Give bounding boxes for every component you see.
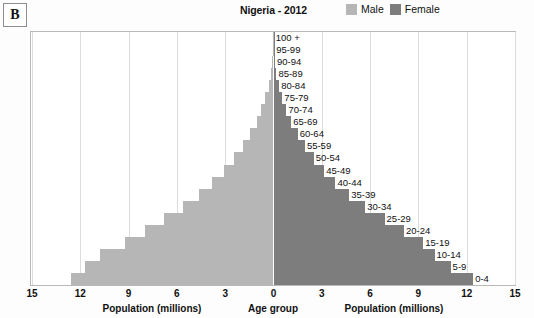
pyramid-row: 65-69 bbox=[31, 116, 515, 128]
bar-male bbox=[85, 261, 273, 273]
pyramid-row: 0-4 bbox=[31, 273, 515, 285]
bar-female bbox=[274, 128, 298, 140]
age-group-label: 40-44 bbox=[337, 178, 361, 188]
age-group-label: 70-74 bbox=[288, 106, 312, 116]
pyramid-row: 25-29 bbox=[31, 213, 515, 225]
bar-female bbox=[274, 225, 404, 237]
bar-female bbox=[274, 104, 287, 116]
pyramid-row: 50-54 bbox=[31, 152, 515, 164]
x-axis-title-right: Population (millions) bbox=[345, 303, 444, 314]
pyramid-row: 85-89 bbox=[31, 68, 515, 80]
gridline bbox=[515, 32, 516, 285]
bar-male bbox=[212, 177, 273, 189]
legend-item-male: Male bbox=[346, 3, 384, 15]
bar-female bbox=[274, 68, 277, 80]
bar-male bbox=[250, 128, 273, 140]
x-axis-tick-label: 12 bbox=[75, 288, 86, 299]
legend-item-female: Female bbox=[390, 3, 440, 15]
age-group-label: 80-84 bbox=[281, 81, 305, 91]
bar-female bbox=[274, 213, 385, 225]
bar-female bbox=[274, 56, 275, 68]
bar-male bbox=[224, 165, 274, 177]
bar-female bbox=[274, 237, 424, 249]
pyramid-row: 35-39 bbox=[31, 189, 515, 201]
bar-male bbox=[257, 116, 274, 128]
bar-female bbox=[274, 44, 275, 56]
age-group-label: 95-99 bbox=[276, 45, 300, 55]
bar-male bbox=[265, 92, 273, 104]
bar-female bbox=[274, 201, 366, 213]
panel-letter: B bbox=[3, 3, 27, 27]
pyramid-row: 60-64 bbox=[31, 128, 515, 140]
pyramid-row: 75-79 bbox=[31, 92, 515, 104]
bar-male bbox=[125, 237, 273, 249]
age-group-label: 50-54 bbox=[316, 154, 340, 164]
pyramid-row: 20-24 bbox=[31, 225, 515, 237]
bar-female bbox=[274, 261, 451, 273]
pyramid-row: 55-59 bbox=[31, 140, 515, 152]
x-axis-titles: Population (millions) Age group Populati… bbox=[0, 303, 534, 317]
age-group-label: 0-4 bbox=[475, 274, 489, 284]
bar-female bbox=[274, 189, 350, 201]
age-group-label: 90-94 bbox=[277, 57, 301, 67]
age-group-label: 5-9 bbox=[453, 262, 467, 272]
bar-rows: 100 +95-9990-9485-8980-8475-7970-7465-69… bbox=[31, 32, 515, 285]
x-axis-tick-label: 3 bbox=[222, 288, 228, 299]
bar-female bbox=[274, 165, 325, 177]
x-axis-title-center: Age group bbox=[248, 303, 298, 314]
x-axis-tick-label: 6 bbox=[367, 288, 373, 299]
bar-male bbox=[71, 273, 274, 285]
pyramid-row: 5-9 bbox=[31, 261, 515, 273]
legend-label-male: Male bbox=[361, 3, 384, 15]
bar-female bbox=[274, 152, 314, 164]
x-axis-tick-label: 15 bbox=[509, 288, 520, 299]
bar-male bbox=[164, 213, 273, 225]
female-swatch-icon bbox=[390, 4, 401, 15]
chart-legend: Male Female bbox=[346, 3, 440, 15]
x-axis-tick-label: 0 bbox=[271, 288, 277, 299]
bar-male bbox=[234, 152, 273, 164]
population-pyramid-figure: B Nigeria - 2012 Male Female 100 +95-999… bbox=[0, 0, 534, 318]
pyramid-row: 100 + bbox=[31, 32, 515, 44]
x-axis-tick-label: 12 bbox=[461, 288, 472, 299]
bar-male bbox=[183, 201, 273, 213]
pyramid-row: 30-34 bbox=[31, 201, 515, 213]
pyramid-row: 95-99 bbox=[31, 44, 515, 56]
bar-female bbox=[274, 177, 336, 189]
x-axis-tick-label: 15 bbox=[26, 288, 37, 299]
age-group-label: 75-79 bbox=[284, 94, 308, 104]
pyramid-row: 80-84 bbox=[31, 80, 515, 92]
pyramid-row: 70-74 bbox=[31, 104, 515, 116]
age-group-label: 60-64 bbox=[300, 130, 324, 140]
age-group-label: 10-14 bbox=[437, 250, 461, 260]
bar-female bbox=[274, 92, 283, 104]
x-axis-tick-label: 9 bbox=[416, 288, 422, 299]
bar-male bbox=[243, 140, 274, 152]
x-axis-tick-label: 9 bbox=[126, 288, 132, 299]
bar-male bbox=[100, 249, 274, 261]
age-group-label: 25-29 bbox=[387, 214, 411, 224]
pyramid-row: 90-94 bbox=[31, 56, 515, 68]
age-group-label: 55-59 bbox=[307, 142, 331, 152]
age-group-label: 20-24 bbox=[406, 226, 430, 236]
male-swatch-icon bbox=[346, 4, 357, 15]
bar-male bbox=[199, 189, 273, 201]
chart-title: Nigeria - 2012 bbox=[240, 4, 307, 16]
age-group-label: 30-34 bbox=[367, 202, 391, 212]
pyramid-row: 10-14 bbox=[31, 249, 515, 261]
bar-female bbox=[274, 80, 280, 92]
x-axis-ticks: 151296303691215 bbox=[30, 288, 516, 301]
age-group-label: 65-69 bbox=[293, 118, 317, 128]
bar-female bbox=[274, 116, 292, 128]
age-group-label: 35-39 bbox=[351, 190, 375, 200]
x-axis-tick-label: 6 bbox=[174, 288, 180, 299]
x-axis-tick-label: 3 bbox=[319, 288, 325, 299]
bar-female bbox=[274, 249, 435, 261]
age-group-label: 15-19 bbox=[425, 238, 449, 248]
age-group-label: 45-49 bbox=[326, 166, 350, 176]
bar-male bbox=[145, 225, 274, 237]
legend-label-female: Female bbox=[405, 3, 440, 15]
age-group-label: 100 + bbox=[276, 33, 300, 43]
bar-female bbox=[274, 140, 305, 152]
x-axis-title-left: Population (millions) bbox=[103, 303, 202, 314]
